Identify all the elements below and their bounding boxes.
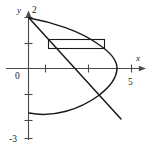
y-axis-arrow-icon (26, 11, 32, 18)
x-axis-arrow-icon (139, 66, 146, 72)
y-top-tick-label: 2 (32, 5, 37, 15)
x-right-tick-label: 5 (128, 77, 133, 87)
axes-group (6, 11, 146, 141)
origin-label: 0 (15, 71, 20, 81)
y-axis-label: y (16, 5, 21, 15)
plot-canvas: y 2 x 5 0 -3 (0, 0, 154, 146)
y-bottom-tick-label: -3 (9, 134, 17, 144)
x-axis-label: x (135, 53, 140, 63)
math-figure: y 2 x 5 0 -3 (0, 0, 154, 146)
approximating-rectangle (49, 40, 105, 49)
